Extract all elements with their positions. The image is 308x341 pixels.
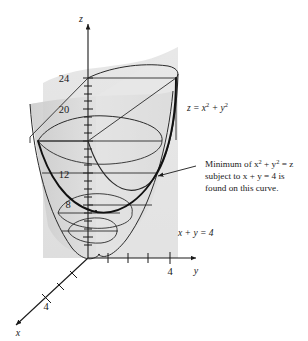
plane-equation-label: x + y = 4 <box>177 228 214 238</box>
minimum-annotation: Minimum of x2 + y2 = z subject to x + y … <box>205 158 293 193</box>
surface-eq-mid: + y <box>209 103 225 113</box>
z-tick-label-12: 12 <box>59 169 70 180</box>
annotation-line-3: found on this curve. <box>205 183 279 193</box>
annotation-line-1: Minimum of x2 + y2 = z <box>205 158 293 169</box>
diagram-canvas: 24 20 12 8 4 4 z y x z = x2 + y2 x + y =… <box>0 0 308 341</box>
y-axis-label: y <box>193 265 199 276</box>
surface-equation-label: z = x2 + y2 <box>186 101 228 113</box>
annotation-line1-b: + y <box>262 159 277 169</box>
x-axis-label: x <box>15 327 21 338</box>
lagrange-multiplier-diagram: 24 20 12 8 4 4 z y x z = x2 + y2 x + y =… <box>0 0 308 341</box>
z-axis-label: z <box>78 13 83 24</box>
z-tick-label-20: 20 <box>59 104 70 115</box>
z-tick-label-8: 8 <box>65 199 70 210</box>
surface-eq-exponent-2: 2 <box>225 101 228 108</box>
x-tick-label-4: 4 <box>43 301 49 312</box>
surface-eq-prefix: z = x <box>186 103 207 113</box>
y-tick-label-4: 4 <box>167 266 173 277</box>
x-axis <box>16 258 88 325</box>
annotation-line1-c: = z <box>279 159 293 169</box>
annotation-line-2: subject to x + y = 4 is <box>205 171 285 181</box>
minimum-point <box>95 210 97 212</box>
z-tick-label-24: 24 <box>59 73 70 84</box>
annotation-line1-a: Minimum of x <box>205 159 259 169</box>
